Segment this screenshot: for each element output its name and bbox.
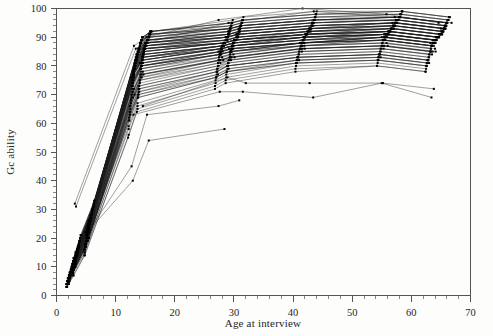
- data-point: [230, 51, 232, 53]
- data-point: [76, 254, 78, 256]
- data-point: [93, 203, 95, 205]
- y-tick-label: 20: [36, 233, 47, 244]
- data-point: [132, 85, 134, 87]
- data-point: [310, 25, 312, 27]
- data-point: [71, 266, 73, 268]
- data-point: [129, 114, 131, 116]
- data-point: [139, 79, 141, 81]
- data-point: [66, 283, 68, 285]
- data-point: [294, 68, 296, 70]
- data-point: [232, 19, 234, 21]
- data-point: [139, 62, 141, 64]
- data-point: [400, 13, 402, 15]
- data-point: [225, 82, 227, 84]
- data-point: [145, 45, 147, 47]
- data-point: [431, 45, 433, 47]
- data-point: [241, 22, 243, 24]
- data-point: [86, 237, 88, 239]
- data-point: [131, 96, 133, 98]
- data-point: [130, 76, 132, 78]
- data-point: [309, 82, 311, 84]
- data-point: [72, 260, 74, 262]
- data-point: [388, 30, 390, 32]
- data-point: [229, 28, 231, 30]
- data-point: [221, 48, 223, 50]
- data-point: [91, 211, 93, 213]
- data-point: [137, 102, 139, 104]
- data-point: [301, 42, 303, 44]
- data-point: [226, 65, 228, 67]
- data-point: [135, 59, 137, 61]
- data-point: [233, 42, 235, 44]
- data-point: [129, 111, 131, 113]
- data-point: [74, 203, 76, 205]
- data-point: [139, 82, 141, 84]
- data-point: [314, 16, 316, 18]
- chart-canvas: 0102030405060700102030405060708090100 Ag…: [0, 0, 493, 336]
- data-point: [142, 105, 144, 107]
- data-point: [315, 13, 317, 15]
- data-point: [312, 96, 314, 98]
- data-point: [138, 88, 140, 90]
- data-point: [379, 51, 381, 53]
- data-point: [221, 56, 223, 58]
- data-point: [139, 42, 141, 44]
- data-point: [236, 36, 238, 38]
- data-point: [216, 71, 218, 73]
- data-point: [295, 62, 297, 64]
- data-point: [228, 59, 230, 61]
- data-point: [90, 214, 92, 216]
- data-point: [226, 36, 228, 38]
- data-point: [74, 263, 76, 265]
- data-point: [88, 226, 90, 228]
- y-tick-label: 50: [36, 147, 47, 158]
- data-point: [295, 65, 297, 67]
- data-point: [136, 111, 138, 113]
- data-point: [223, 128, 225, 130]
- data-point: [302, 39, 304, 41]
- data-point: [93, 200, 95, 202]
- data-point: [218, 105, 220, 107]
- data-point: [142, 53, 144, 55]
- data-point: [132, 79, 134, 81]
- data-point: [217, 62, 219, 64]
- data-point: [84, 251, 86, 253]
- data-point: [377, 59, 379, 61]
- data-point: [446, 22, 448, 24]
- data-point: [435, 39, 437, 41]
- data-point: [219, 53, 221, 55]
- x-tick-label: 60: [406, 307, 417, 318]
- data-point: [391, 28, 393, 30]
- data-point: [383, 48, 385, 50]
- data-point: [448, 19, 450, 21]
- data-point: [303, 45, 305, 47]
- data-point: [215, 82, 217, 84]
- data-point: [73, 257, 75, 259]
- data-point: [381, 36, 383, 38]
- data-point: [225, 39, 227, 41]
- y-axis-title: Gc ability: [4, 129, 16, 175]
- data-point: [218, 59, 220, 61]
- data-point: [433, 45, 435, 47]
- data-point: [69, 277, 71, 279]
- data-point: [138, 85, 140, 87]
- data-point: [443, 28, 445, 30]
- data-point: [393, 25, 395, 27]
- data-point: [240, 25, 242, 27]
- data-point: [143, 51, 145, 53]
- data-point: [396, 19, 398, 21]
- data-point: [134, 68, 136, 70]
- data-point: [245, 82, 247, 84]
- data-point: [302, 48, 304, 50]
- data-point: [135, 62, 137, 64]
- data-point: [294, 71, 296, 73]
- data-point: [381, 45, 383, 47]
- data-point: [231, 48, 233, 50]
- data-point: [226, 71, 228, 73]
- data-point: [232, 45, 234, 47]
- data-point: [71, 263, 73, 265]
- data-point: [300, 48, 302, 50]
- data-point: [78, 243, 80, 245]
- data-point: [129, 108, 131, 110]
- data-point: [142, 56, 144, 58]
